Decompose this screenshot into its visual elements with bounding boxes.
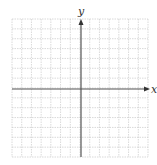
coordinate-plane: x y [0,0,157,165]
y-axis-label: y [77,5,85,18]
grid [12,19,148,157]
x-axis-label: x [151,83,157,96]
y-axis-arrow-icon [79,19,84,25]
x-axis-arrow-icon [144,87,150,92]
